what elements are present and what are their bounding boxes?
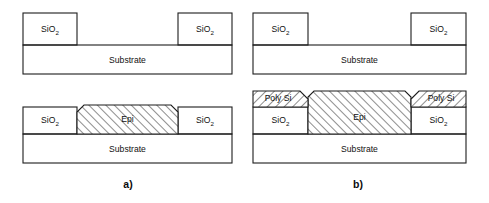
epi-label: Epi [121, 114, 134, 124]
poly-si-label-right: Poly Si [428, 93, 455, 103]
substrate-label: Substrate [109, 55, 146, 65]
process-cross-section-figure: Substrate SiO2 SiO2 Substrate SiO2 SiO2 [0, 0, 489, 203]
substrate-label: Substrate [341, 55, 378, 65]
figure-canvas: Substrate SiO2 SiO2 Substrate SiO2 SiO2 [0, 0, 489, 203]
panel-caption-b: b) [353, 178, 363, 190]
epi-label: Epi [353, 112, 366, 122]
panel-caption-a: a) [123, 178, 132, 190]
substrate-label: Substrate [341, 144, 378, 154]
poly-si-label-left: Poly Si [265, 93, 292, 103]
substrate-label: Substrate [109, 144, 146, 154]
